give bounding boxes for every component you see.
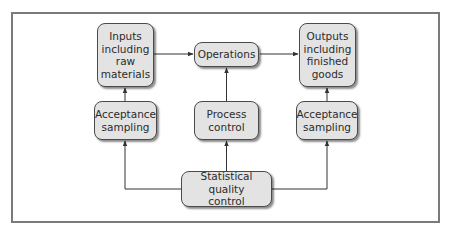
node-inputs-line-4: materials <box>101 68 150 81</box>
node-inputs-line-1: Inputs <box>101 30 150 43</box>
node-outputs-line-1: Outputs <box>304 30 352 43</box>
node-acceptance-left-line-2: sampling <box>95 121 156 134</box>
node-outputs-line-3: finished <box>304 55 352 68</box>
node-sqc-line-1: Statistical quality <box>184 170 269 195</box>
node-acceptance-right-line-1: Acceptance <box>296 108 357 121</box>
node-operations: Operations <box>194 42 259 67</box>
node-operations-label: Operations <box>198 48 256 61</box>
node-process-control: Process control <box>194 101 259 140</box>
node-inputs-line-2: including <box>101 43 150 56</box>
node-process-control-line-2: control <box>207 121 247 134</box>
node-acceptance-right-line-2: sampling <box>296 121 357 134</box>
node-acceptance-sampling-right: Acceptance sampling <box>296 101 358 140</box>
node-process-control-line-1: Process <box>207 108 247 121</box>
node-acceptance-left-line-1: Acceptance <box>95 108 156 121</box>
node-outputs-line-4: goods <box>304 68 352 81</box>
node-sqc-line-2: control <box>184 195 269 208</box>
node-inputs: Inputs including raw materials <box>97 23 154 87</box>
node-outputs-line-2: including <box>304 43 352 56</box>
node-inputs-line-3: raw <box>101 55 150 68</box>
node-acceptance-sampling-left: Acceptance sampling <box>94 101 157 140</box>
node-outputs: Outputs including finished goods <box>299 23 356 87</box>
node-statistical-quality-control: Statistical quality control <box>181 171 272 207</box>
